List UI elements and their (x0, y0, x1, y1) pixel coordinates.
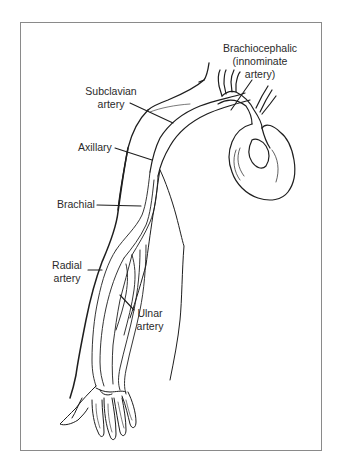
label-line: Subclavian (80, 85, 142, 98)
label-line: Ulnar (134, 307, 166, 320)
label-line: artery) (217, 68, 303, 81)
label-line: Radial (48, 259, 86, 272)
label-line: Brachiocephalic (217, 42, 303, 55)
label-axillary: Axillary (78, 141, 112, 154)
leader-axillary (115, 148, 152, 160)
subclavian-axillary-artery (150, 93, 250, 176)
label-brachiocephalic: Brachiocephalic (innominate artery) (217, 42, 303, 81)
label-brachial: Brachial (57, 198, 95, 211)
leader-brachial (97, 205, 141, 206)
label-line: artery (134, 320, 166, 333)
heart (229, 124, 295, 200)
torso-outline (130, 170, 184, 380)
label-line: artery (48, 272, 86, 285)
label-subclavian-artery: Subclavian artery (80, 85, 142, 111)
label-line: artery (80, 98, 142, 111)
label-radial-artery: Radial artery (48, 259, 86, 285)
label-ulnar-artery: Ulnar artery (134, 307, 166, 333)
leader-brachiocephalic (231, 80, 252, 110)
label-line: Brachial (57, 198, 95, 211)
label-line: Axillary (78, 141, 112, 154)
label-line: (innominate (217, 55, 303, 68)
